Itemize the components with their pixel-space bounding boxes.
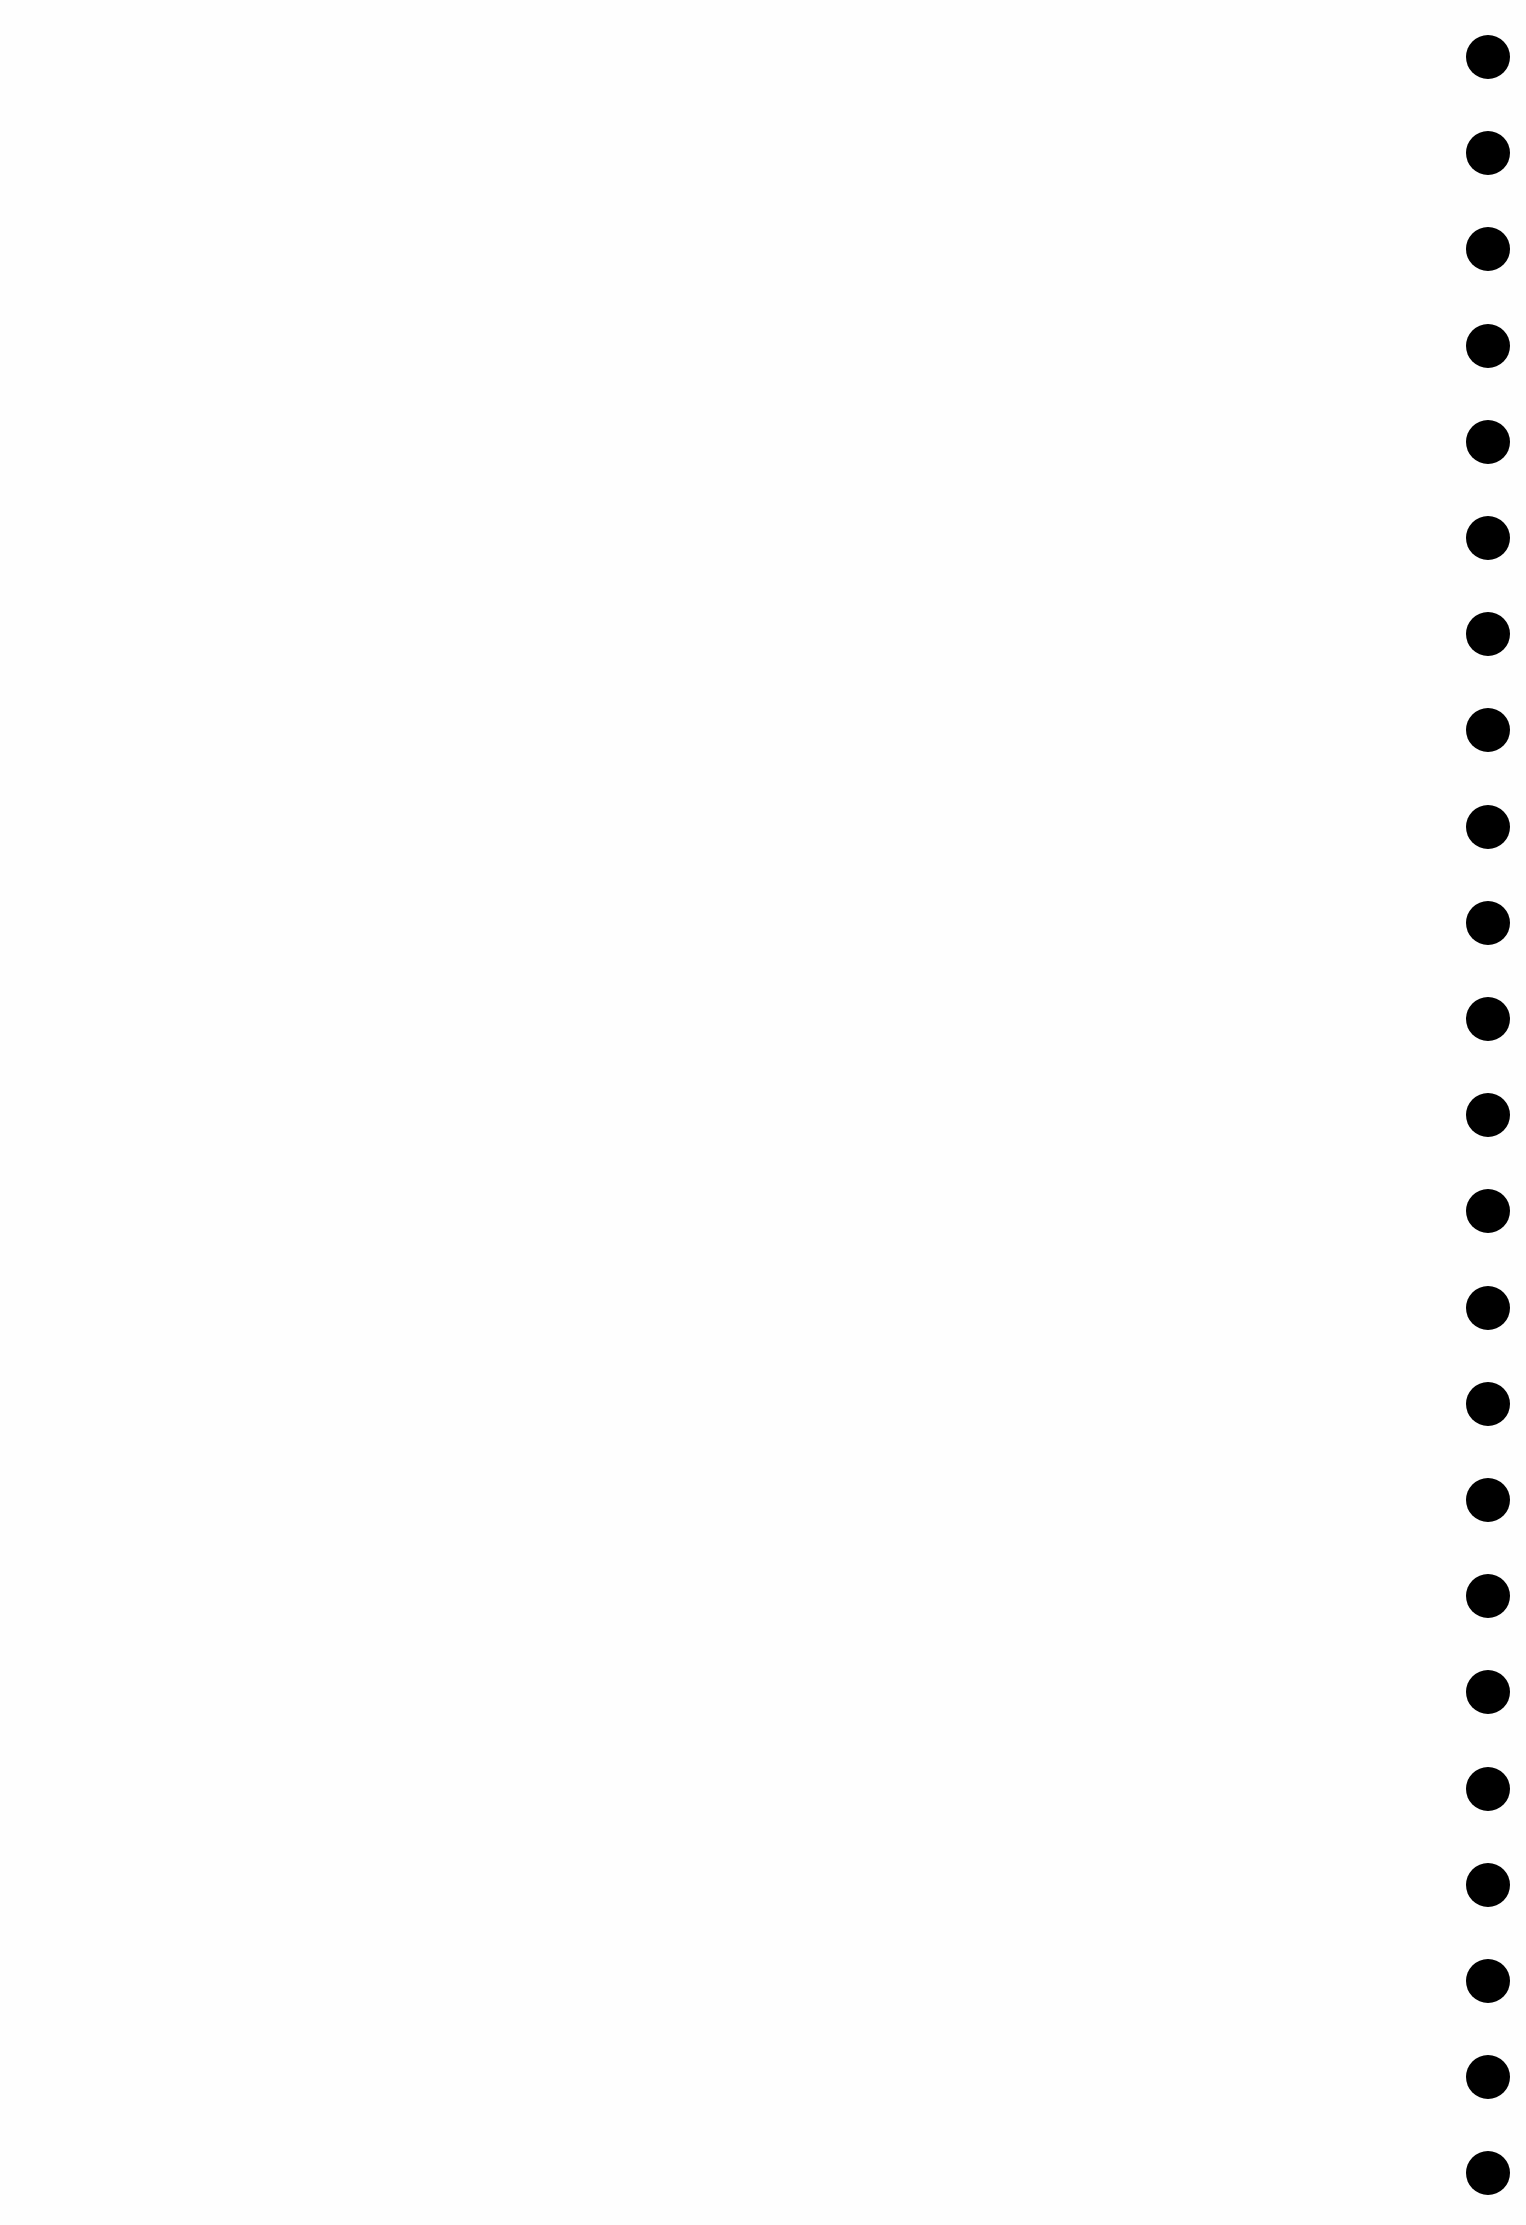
blank-notebook-page (0, 0, 1526, 2225)
punch-hole (1466, 1670, 1510, 1714)
punch-hole (1466, 612, 1510, 656)
punch-hole (1466, 901, 1510, 945)
punch-hole (1466, 131, 1510, 175)
punch-hole (1466, 2151, 1510, 2195)
punch-hole (1466, 1767, 1510, 1811)
punch-hole (1466, 1382, 1510, 1426)
punch-hole (1466, 35, 1510, 79)
punch-hole (1466, 227, 1510, 271)
punch-hole (1466, 1959, 1510, 2003)
punch-hole (1466, 324, 1510, 368)
punch-hole (1466, 708, 1510, 752)
punch-hole (1466, 1574, 1510, 1618)
punch-hole (1466, 805, 1510, 849)
punch-hole (1466, 1478, 1510, 1522)
punch-hole (1466, 420, 1510, 464)
punch-hole (1466, 2055, 1510, 2099)
punch-hole (1466, 516, 1510, 560)
punch-hole (1466, 997, 1510, 1041)
punch-hole-column (0, 0, 1526, 2225)
punch-hole (1466, 1863, 1510, 1907)
punch-hole (1466, 1093, 1510, 1137)
punch-hole (1466, 1286, 1510, 1330)
punch-hole (1466, 1189, 1510, 1233)
